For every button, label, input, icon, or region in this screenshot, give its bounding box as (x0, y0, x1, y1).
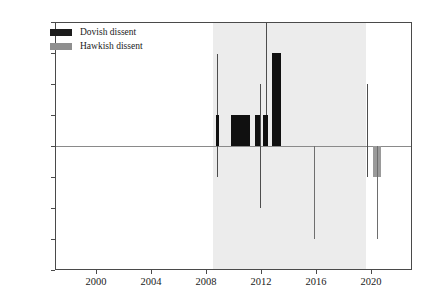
x-tick-mark (96, 270, 97, 274)
chart-figure: 4 3 2 1 0 -1 -2 -3 -4 2000 2004 2008 201… (0, 0, 426, 301)
plot-area (55, 22, 412, 270)
x-tick-label-2000: 2000 (86, 276, 107, 287)
whisker-2016 (314, 146, 315, 239)
whisker-2011 (260, 84, 261, 208)
x-tick-mark (261, 270, 262, 274)
x-tick-mark (316, 270, 317, 274)
x-tick-label-2004: 2004 (141, 276, 162, 287)
y-tick-mark (51, 270, 55, 271)
bar-dovish-2010 (231, 115, 250, 146)
bar-dovish-2012 (263, 115, 268, 146)
x-tick-label-2012: 2012 (251, 276, 272, 287)
x-tick-label-2008: 2008 (196, 276, 217, 287)
x-tick-label-2020: 2020 (361, 276, 382, 287)
legend-item-dovish: Dovish dissent (50, 26, 143, 38)
legend-swatch-hawkish-icon (50, 43, 72, 50)
whisker-2020-upper (367, 84, 368, 177)
x-tick-mark (371, 270, 372, 274)
legend-swatch-dovish-icon (50, 29, 72, 36)
x-tick-mark (151, 270, 152, 274)
bar-dovish-2011 (255, 115, 260, 146)
whisker-2020-lower (377, 146, 378, 239)
legend-item-hawkish: Hawkish dissent (50, 40, 143, 52)
zero-axis-line (56, 146, 411, 147)
bar-dovish-2009 (216, 115, 219, 146)
chart-legend: Dovish dissent Hawkish dissent (44, 22, 149, 58)
legend-label-dovish: Dovish dissent (80, 26, 136, 39)
x-tick-label-2016: 2016 (306, 276, 327, 287)
legend-label-hawkish: Hawkish dissent (80, 40, 143, 53)
bar-dovish-2013 (272, 53, 281, 146)
x-tick-mark (206, 270, 207, 274)
